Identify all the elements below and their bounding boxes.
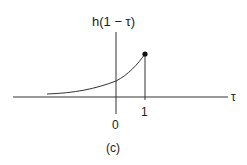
- x-axis-label: τ: [231, 90, 236, 104]
- tick-label-1: 1: [141, 105, 148, 119]
- exponential-curve: [47, 54, 145, 94]
- signal-plot: h(1 − τ) τ 1 0 (c): [0, 0, 247, 165]
- y-axis-label: h(1 − τ): [92, 14, 135, 29]
- tick-label-0: 0: [112, 118, 119, 132]
- endpoint-dot: [142, 51, 147, 56]
- figure-caption: (c): [106, 141, 120, 155]
